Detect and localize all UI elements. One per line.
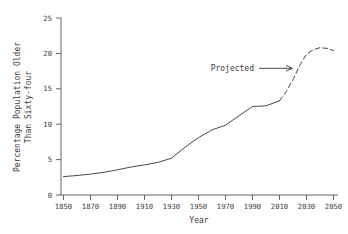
y-tick-label-25: 25 xyxy=(43,14,52,23)
x-tick-label-1870: 1870 xyxy=(82,202,99,211)
x-tick-label-1890: 1890 xyxy=(109,202,126,211)
y-tick-label-5: 5 xyxy=(48,155,52,164)
projected-series-line xyxy=(280,48,334,101)
x-axis-tick-labels: 1850 1870 1890 1910 1930 1950 1970 1990 … xyxy=(55,202,342,211)
projected-annotation-label: Projected xyxy=(211,64,255,73)
y-axis-title-line2: Than Sixty-four xyxy=(24,71,33,143)
x-tick-label-1990: 1990 xyxy=(244,202,261,211)
x-tick-label-1850: 1850 xyxy=(55,202,72,211)
observed-series-line xyxy=(64,101,280,177)
x-tick-label-1910: 1910 xyxy=(136,202,153,211)
y-axis-ticks xyxy=(56,18,61,195)
x-tick-label-1950: 1950 xyxy=(190,202,207,211)
y-tick-label-20: 20 xyxy=(43,49,52,58)
projected-annotation: Projected xyxy=(211,64,293,73)
x-axis-ticks xyxy=(64,195,334,200)
x-tick-label-1930: 1930 xyxy=(163,202,180,211)
x-tick-label-2010: 2010 xyxy=(271,202,288,211)
y-tick-label-0: 0 xyxy=(48,191,52,200)
y-axis-tick-labels: 0 5 10 15 20 25 xyxy=(43,14,52,200)
line-chart-svg: 0 5 10 15 20 25 1850 1870 1890 1910 xyxy=(0,0,348,234)
x-axis-title: Year xyxy=(189,216,208,225)
y-axis-title-line1: Percentage Population Older xyxy=(13,42,22,172)
y-tick-label-15: 15 xyxy=(43,84,52,93)
x-tick-label-2050: 2050 xyxy=(325,202,342,211)
chart-figure: 0 5 10 15 20 25 1850 1870 1890 1910 xyxy=(0,0,348,234)
y-tick-label-10: 10 xyxy=(43,120,52,129)
x-tick-label-2030: 2030 xyxy=(298,202,315,211)
x-tick-label-1970: 1970 xyxy=(217,202,234,211)
